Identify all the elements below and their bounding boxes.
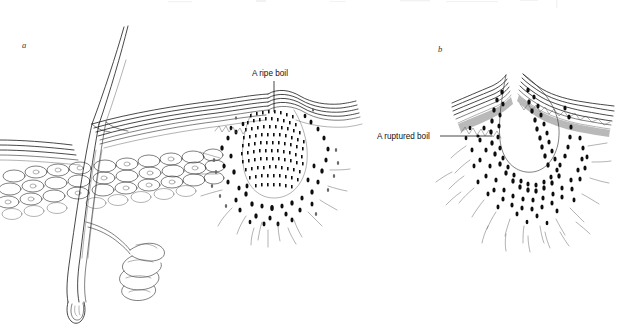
ruptured-boil-label: A ruptured boil <box>377 132 430 141</box>
boil-anatomy-illustration: a A ripe boil <box>0 0 623 332</box>
panel-letter-b: b <box>438 44 442 54</box>
ruptured-boil-leader-dot <box>476 134 479 137</box>
ripe-boil-label: A ripe boil <box>252 69 288 78</box>
panel-letter-a: a <box>22 40 26 50</box>
figure-root: a A ripe boil <box>0 0 623 332</box>
